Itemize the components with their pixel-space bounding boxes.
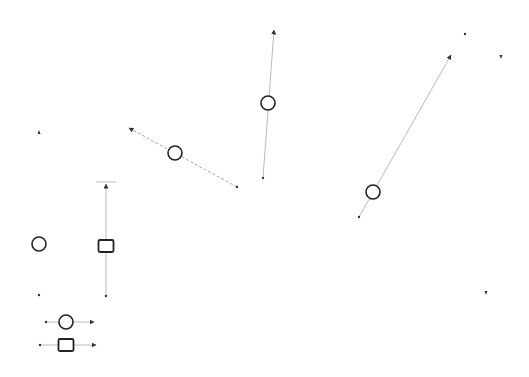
circle-left-isolated-icon xyxy=(32,237,46,251)
marker-5-arrow-icon xyxy=(485,291,488,295)
nodes-layer xyxy=(32,96,380,351)
diagram-canvas xyxy=(0,0,529,377)
tail-dot-icon xyxy=(236,186,238,188)
marker-1-arrow-icon xyxy=(38,130,41,134)
tail-dot-icon xyxy=(45,321,47,323)
circle-dashed-diagonal-icon xyxy=(168,146,182,160)
circle-vertical-top-icon xyxy=(261,96,275,110)
circle-legend-icon xyxy=(59,315,73,329)
marker-4-arrow-icon xyxy=(500,55,503,59)
square-legend-icon xyxy=(59,339,74,351)
tail-dot-icon xyxy=(262,177,264,179)
tail-dot-icon xyxy=(105,295,107,297)
tail-dot-icon xyxy=(358,216,360,218)
markers-layer xyxy=(38,33,503,296)
square-vertical-left-icon xyxy=(99,240,114,252)
vectors-layer xyxy=(39,30,451,346)
vector-dashed-diagonal xyxy=(129,128,238,188)
tail-dot-icon xyxy=(39,344,41,346)
marker-3-dot-icon xyxy=(464,33,466,35)
marker-2-dot-icon xyxy=(38,294,40,296)
circle-long-diagonal-icon xyxy=(366,185,380,199)
